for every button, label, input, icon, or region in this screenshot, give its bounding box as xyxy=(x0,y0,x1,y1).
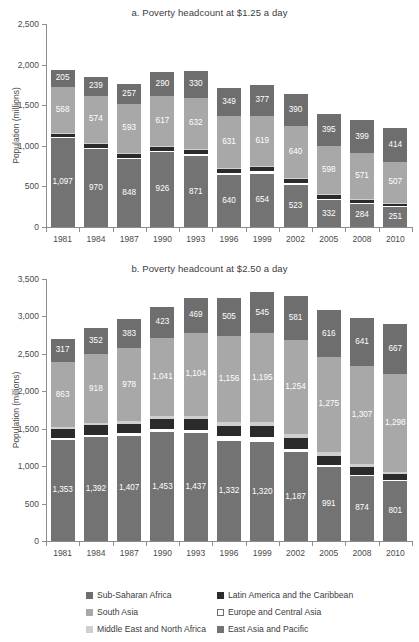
bar-segment-value: 505 xyxy=(217,313,241,321)
x-axis-tick-mark xyxy=(379,542,380,546)
y-axis-tick-label: 3,000 xyxy=(0,311,39,321)
bar-stack[interactable]: 8741,307641 xyxy=(350,279,374,541)
bar-segment-mena xyxy=(84,423,108,425)
bar-segment-ssa: 667 xyxy=(383,324,407,374)
bar-segment-value: 848 xyxy=(117,188,141,196)
bar-segment-value: 641 xyxy=(350,338,374,346)
bar-segment-ssa: 469 xyxy=(184,298,208,333)
bar-segment-eca xyxy=(217,436,241,441)
bar-segment-mena xyxy=(84,143,108,144)
bar-segment-eca xyxy=(317,465,341,467)
x-axis-tick-label: 1996 xyxy=(220,234,239,244)
legend-item-ssa[interactable]: Sub-Saharan Africa xyxy=(86,588,206,602)
bar-segment-lac xyxy=(184,419,208,429)
y-axis-tick-label: 0 xyxy=(0,222,39,232)
bar-stack[interactable]: 1,4531,041423 xyxy=(150,279,174,541)
bar-stack[interactable]: 284571399 xyxy=(350,24,374,227)
bar-stack[interactable]: 640631349 xyxy=(217,24,241,227)
bar-segment-eap: 1,332 xyxy=(217,441,241,541)
bar-stack[interactable]: 1,407978383 xyxy=(117,279,141,541)
bar-segment-eca xyxy=(51,438,75,440)
bar-stack[interactable]: 523640390 xyxy=(284,24,308,227)
bar-stack[interactable]: 926617290 xyxy=(150,24,174,227)
bar-segment-value: 523 xyxy=(284,202,308,210)
bar-stack[interactable]: 332598395 xyxy=(317,24,341,227)
legend-swatch-ssa xyxy=(86,592,93,599)
bar-segment-sa: 619 xyxy=(250,116,274,166)
x-axis-tick-mark xyxy=(179,228,180,232)
legend-label: Middle East and North Africa xyxy=(97,624,206,634)
bar-segment-value: 1,041 xyxy=(150,373,174,381)
legend-item-lac[interactable]: Latin America and the Caribbean xyxy=(217,588,353,602)
bar-segment-value: 667 xyxy=(383,345,407,353)
bar-segment-value: 317 xyxy=(51,346,75,354)
bar-segment-value: 239 xyxy=(84,82,108,90)
legend-swatch-eca xyxy=(217,609,224,616)
bar-stack[interactable]: 1,3201,195545 xyxy=(250,279,274,541)
bar-stack[interactable]: 9911,275616 xyxy=(317,279,341,541)
bar-segment-lac xyxy=(383,474,407,480)
bar-segment-eca xyxy=(150,151,174,152)
bar-stack[interactable]: 8011,298667 xyxy=(383,279,407,541)
x-axis-tick-mark xyxy=(146,228,147,232)
bar-segment-eca xyxy=(150,429,174,432)
legend-swatch-eap xyxy=(217,626,224,633)
bar-stack[interactable]: 1,3321,156505 xyxy=(217,279,241,541)
bar-segment-value: 991 xyxy=(317,500,341,508)
bar-stack[interactable]: 1,353863317 xyxy=(51,279,75,541)
bar-segment-sa: 918 xyxy=(84,354,108,423)
bar-stack[interactable]: 1,1871,254581 xyxy=(284,279,308,541)
x-axis-tick-mark xyxy=(46,542,47,546)
legend-item-eap[interactable]: East Asia and Pacific xyxy=(217,622,353,636)
bar-segment-eap: 991 xyxy=(317,467,341,541)
legend-column-2: Latin America and the CaribbeanEurope an… xyxy=(217,588,353,639)
bar-segment-value: 1,307 xyxy=(350,411,374,419)
y-axis-tick-label: 2,500 xyxy=(0,349,39,359)
bar-stack[interactable]: 848593257 xyxy=(117,24,141,227)
bar-stack[interactable]: 871632330 xyxy=(184,24,208,227)
x-axis-tick-label: 1999 xyxy=(253,234,272,244)
bar-segment-mena xyxy=(284,434,308,438)
x-axis-tick-mark xyxy=(246,228,247,232)
bar-segment-sa: 574 xyxy=(84,96,108,143)
bar-segment-value: 619 xyxy=(250,137,274,145)
bar-segment-eca xyxy=(184,430,208,434)
legend-item-eca[interactable]: Europe and Central Asia xyxy=(217,605,353,619)
x-axis-tick-mark xyxy=(212,228,213,232)
bar-segment-value: 1,332 xyxy=(217,487,241,495)
bar-segment-sa: 1,156 xyxy=(217,336,241,423)
bar-segment-eca xyxy=(250,437,274,442)
bar-stack[interactable]: 1,097568205 xyxy=(51,24,75,227)
bar-stack[interactable]: 1,4371,104469 xyxy=(184,279,208,541)
bar-segment-value: 284 xyxy=(350,211,374,219)
bar-stack[interactable]: 251507414 xyxy=(383,24,407,227)
bar-segment-sa: 1,298 xyxy=(383,374,407,471)
bar-segment-value: 1,407 xyxy=(117,484,141,492)
bar-segment-value: 507 xyxy=(383,178,407,186)
bar-segment-value: 970 xyxy=(84,184,108,192)
bar-segment-lac xyxy=(317,195,341,199)
bar-segment-value: 1,275 xyxy=(317,400,341,408)
legend-item-sa[interactable]: South Asia xyxy=(86,605,206,619)
y-axis-tick-label: 1,000 xyxy=(0,461,39,471)
bar-segment-ssa: 352 xyxy=(84,328,108,354)
bar-segment-ssa: 545 xyxy=(250,292,274,333)
bar-stack[interactable]: 970574239 xyxy=(84,24,108,227)
bar-segment-value: 631 xyxy=(217,138,241,146)
bar-segment-eap: 1,392 xyxy=(84,437,108,541)
legend-item-mena[interactable]: Middle East and North Africa xyxy=(86,622,206,636)
bar-segment-ssa: 257 xyxy=(117,84,141,105)
x-axis-tick-mark xyxy=(412,542,413,546)
bar-segment-sa: 640 xyxy=(284,126,308,178)
bar-segment-lac xyxy=(317,456,341,465)
bar-segment-value: 598 xyxy=(317,166,341,174)
x-axis-tick-label: 1987 xyxy=(120,548,139,558)
bar-stack[interactable]: 1,392918352 xyxy=(84,279,108,541)
bar-segment-value: 1,104 xyxy=(184,370,208,378)
bar-segment-value: 568 xyxy=(51,105,75,113)
bar-segment-lac xyxy=(250,426,274,436)
bar-segment-value: 1,156 xyxy=(217,375,241,383)
bar-segment-mena xyxy=(250,422,274,426)
bar-stack[interactable]: 654619377 xyxy=(250,24,274,227)
bar-segment-mena xyxy=(184,416,208,420)
